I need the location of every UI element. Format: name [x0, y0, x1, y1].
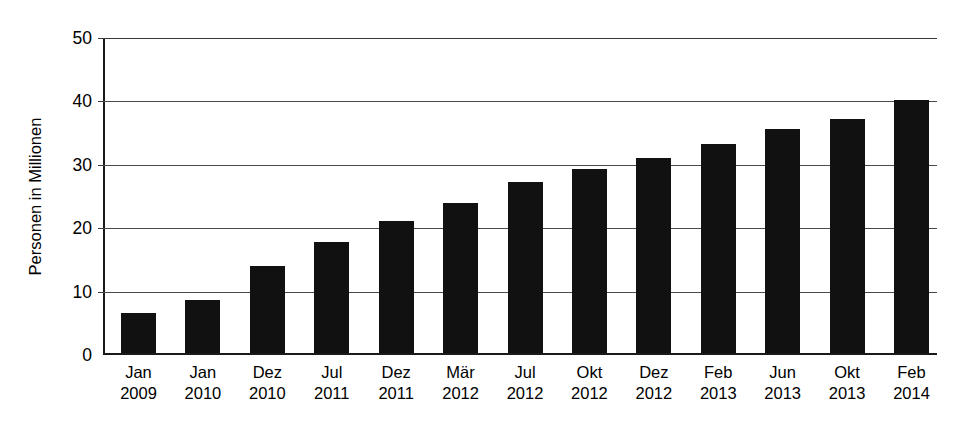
x-tick-label: Jan2010 — [168, 362, 238, 404]
x-tick-label-year: 2013 — [748, 383, 818, 404]
bar — [765, 129, 800, 355]
bar — [443, 203, 478, 355]
x-tick-label-month: Dez — [619, 362, 689, 383]
x-tick-label-month: Jan — [104, 362, 174, 383]
x-tick-label-year: 2013 — [683, 383, 753, 404]
x-tick-label-year: 2012 — [554, 383, 624, 404]
x-axis-tick-labels: Jan2009Jan2010Dez2010Jul2011Dez2011Mär20… — [103, 362, 937, 422]
x-axis-baseline — [103, 353, 937, 355]
x-tick-label-year: 2011 — [361, 383, 431, 404]
bar — [636, 158, 671, 355]
y-tick-label: 30 — [52, 157, 92, 175]
x-tick-label-month: Dez — [232, 362, 302, 383]
x-tick-label-year: 2014 — [877, 383, 947, 404]
x-tick-label: Jun2013 — [748, 362, 818, 404]
bar — [185, 300, 220, 355]
y-tick-label: 50 — [52, 30, 92, 48]
bar — [379, 221, 414, 355]
x-tick-label-year: 2012 — [619, 383, 689, 404]
plot-area — [103, 38, 937, 355]
x-tick-label-month: Feb — [683, 362, 753, 383]
y-axis-tick-labels: 50 40 30 20 10 0 — [46, 38, 92, 355]
bar — [121, 313, 156, 355]
bar — [314, 242, 349, 355]
y-tick-label: 10 — [52, 284, 92, 302]
x-tick-label: Mär2012 — [426, 362, 496, 404]
bars-layer — [103, 38, 937, 355]
x-tick-label: Feb2014 — [877, 362, 947, 404]
x-tick-label-month: Mär — [426, 362, 496, 383]
x-tick-label-month: Jan — [168, 362, 238, 383]
bar-chart: Personen in Millionen 50 40 30 20 10 0 J… — [0, 0, 971, 442]
x-tick-label: Okt2012 — [554, 362, 624, 404]
y-axis-title: Personen in Millionen — [22, 38, 48, 355]
x-tick-label: Okt2013 — [812, 362, 882, 404]
x-tick-label-year: 2012 — [426, 383, 496, 404]
x-tick-label-year: 2009 — [104, 383, 174, 404]
bar — [508, 182, 543, 355]
x-tick-label-month: Jun — [748, 362, 818, 383]
x-tick-label-year: 2012 — [490, 383, 560, 404]
x-tick-label: Dez2012 — [619, 362, 689, 404]
x-tick-label-month: Okt — [554, 362, 624, 383]
x-tick-label: Feb2013 — [683, 362, 753, 404]
bar — [830, 119, 865, 355]
x-tick-label-year: 2011 — [297, 383, 367, 404]
bar — [894, 100, 929, 355]
x-tick-label-month: Jul — [297, 362, 367, 383]
x-tick-label: Jul2012 — [490, 362, 560, 404]
bar — [572, 169, 607, 355]
bar — [250, 266, 285, 355]
x-tick-label-year: 2010 — [168, 383, 238, 404]
x-tick-label: Dez2010 — [232, 362, 302, 404]
bar — [701, 144, 736, 355]
x-tick-label: Jan2009 — [104, 362, 174, 404]
y-tick-label: 20 — [52, 220, 92, 238]
x-tick-label-year: 2010 — [232, 383, 302, 404]
y-tick-label: 0 — [52, 347, 92, 365]
y-tick-label: 40 — [52, 93, 92, 111]
x-tick-label-month: Dez — [361, 362, 431, 383]
x-tick-label-year: 2013 — [812, 383, 882, 404]
x-tick-label-month: Okt — [812, 362, 882, 383]
x-tick-label: Dez2011 — [361, 362, 431, 404]
x-tick-label-month: Feb — [877, 362, 947, 383]
x-tick-label-month: Jul — [490, 362, 560, 383]
x-tick-label: Jul2011 — [297, 362, 367, 404]
